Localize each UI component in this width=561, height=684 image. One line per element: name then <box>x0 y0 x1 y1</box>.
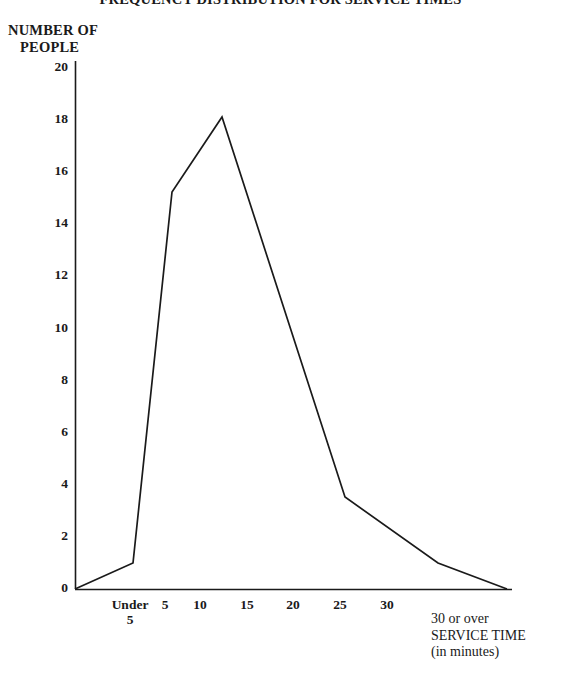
y-tick-label: 4 <box>24 477 68 491</box>
x-axis-title-units: (in minutes) <box>431 644 526 661</box>
x-tick-label-main: Under <box>112 597 149 612</box>
y-tick-label: 6 <box>24 425 68 439</box>
y-tick-label: 20 <box>24 60 68 74</box>
x-tick-label-sub: 5 <box>95 612 165 627</box>
y-tick-label: 18 <box>24 112 68 126</box>
x-tick-label-15: 15 <box>227 597 267 612</box>
x-axis-title-main: SERVICE TIME <box>431 628 526 645</box>
x-axis-title: 30 or over SERVICE TIME (in minutes) <box>431 611 526 661</box>
chart-page: FREQUENCY DISTRIBUTION FOR SERVICE TIMES… <box>0 0 561 684</box>
x-tick-label-20: 20 <box>273 597 313 612</box>
y-tick-label: 14 <box>24 216 68 230</box>
y-tick-label: 0 <box>24 581 68 595</box>
y-tick-label: 10 <box>24 321 68 335</box>
x-tick-label-30-or-over: 30 or over <box>431 611 526 628</box>
y-tick-label: 16 <box>24 164 68 178</box>
frequency-polyline <box>75 117 507 589</box>
x-tick-label-25: 25 <box>320 597 360 612</box>
y-tick-label: 12 <box>24 268 68 282</box>
x-tick-label-10: 10 <box>180 597 220 612</box>
plot-area <box>0 0 561 684</box>
y-tick-label: 2 <box>24 529 68 543</box>
x-tick-label-5: 5 <box>145 597 185 612</box>
y-tick-label: 8 <box>24 373 68 387</box>
x-tick-label-30: 30 <box>367 597 407 612</box>
